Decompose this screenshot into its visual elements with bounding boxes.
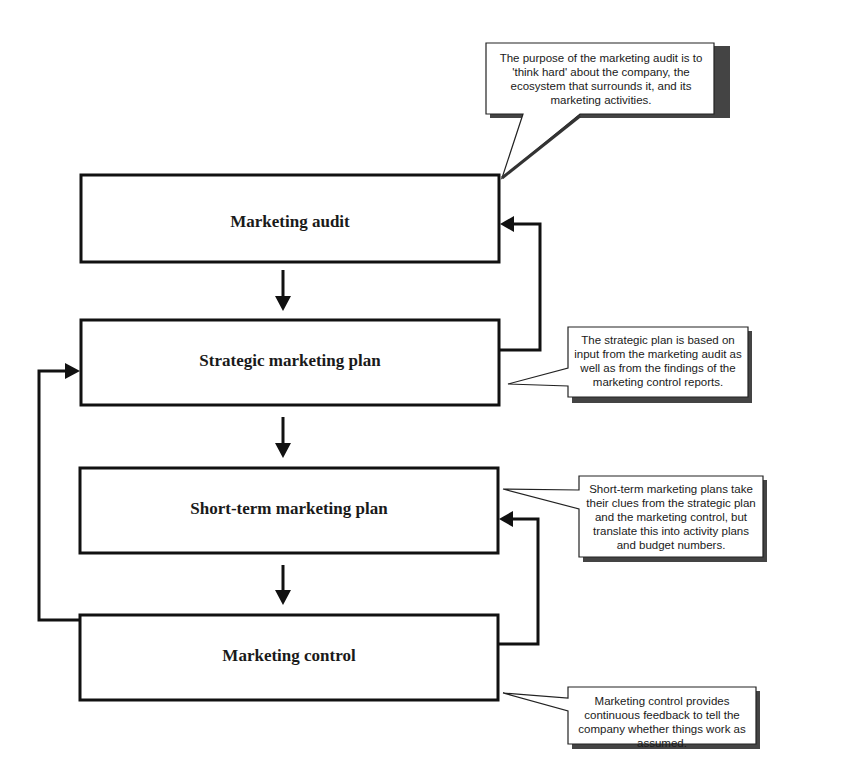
callout-text-control: Marketing control provides continuous fe… <box>570 694 754 750</box>
box-strategic-marketing-plan: Strategic marketing plan <box>81 320 499 405</box>
box-short-term-marketing-plan: Short-term marketing plan <box>80 468 498 553</box>
box-marketing-audit: Marketing audit <box>81 175 499 262</box>
callout-text-audit: The purpose of the marketing audit is to… <box>490 51 712 107</box>
feedback-arrow-strategic-to-audit <box>499 216 540 350</box>
feedback-arrow-control-to-strategic <box>39 363 80 620</box>
box-marketing-control: Marketing control <box>80 615 498 700</box>
arrow-audit-to-strategic <box>275 270 291 311</box>
callout-text-strategic: The strategic plan is based on input fro… <box>570 333 746 389</box>
box-label: Marketing audit <box>230 212 350 231</box>
box-label: Marketing control <box>222 646 356 665</box>
feedback-arrow-control-to-shortterm <box>498 511 538 644</box>
callout-text-short-term: Short-term marketing plans take their cl… <box>582 482 760 552</box>
arrow-shortterm-to-control <box>275 565 291 605</box>
box-label: Short-term marketing plan <box>190 499 388 518</box>
arrow-strategic-to-shortterm <box>275 417 291 458</box>
box-label: Strategic marketing plan <box>199 351 381 370</box>
